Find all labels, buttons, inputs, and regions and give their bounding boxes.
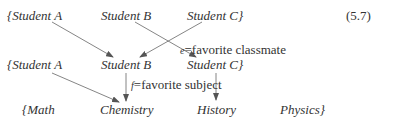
map-f-label: f=favorite subject	[131, 78, 222, 91]
map-e-eq: =	[184, 42, 191, 57]
bottom-physics: Physics}	[280, 103, 325, 116]
bottom-history: History	[197, 103, 236, 116]
top-student-a: {Student A	[7, 9, 62, 22]
arrow-f-studentA-to-chemistry	[52, 73, 119, 102]
top-student-b: Student B	[101, 9, 151, 22]
bottom-math: {Math	[22, 103, 55, 116]
arrow-e-studentA-to-studentB	[52, 22, 113, 57]
bottom-chemistry: Chemistry	[100, 103, 153, 116]
middle-student-c: Student C}	[187, 58, 243, 71]
map-e-label: e=favorite classmate	[180, 43, 286, 56]
equation-number: (5.7)	[346, 9, 371, 22]
middle-student-b: Student B	[101, 58, 151, 71]
middle-student-a: {Student A	[7, 58, 62, 71]
top-student-c: Student C}	[187, 9, 243, 22]
map-f-text: favorite subject	[141, 77, 222, 92]
map-e-text: favorite classmate	[192, 42, 286, 57]
